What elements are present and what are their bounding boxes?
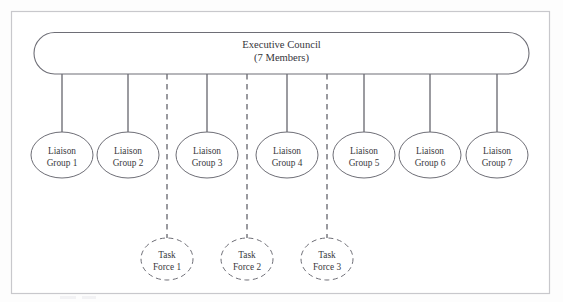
scan-artifact (60, 296, 76, 299)
liaison-group-label-line2-3: Group 3 (192, 158, 223, 168)
task-force-label-line1-3: Task (318, 250, 336, 260)
liaison-group-label-line1-1: Liaison (48, 146, 76, 156)
task-force-node-1[interactable]: TaskForce 1 (141, 238, 193, 280)
liaison-group-label-line2-6: Group 6 (415, 158, 446, 168)
task-force-label-line1-1: Task (158, 250, 176, 260)
executive-council-node[interactable]: Executive Council (7 Members) (34, 33, 529, 75)
diagram-page: Executive Council (7 Members) LiaisonGro… (0, 0, 563, 302)
task-force-label-line1-2: Task (238, 250, 256, 260)
liaison-group-node-4[interactable]: LiaisonGroup 4 (256, 132, 318, 178)
org-chart-svg: Executive Council (7 Members) LiaisonGro… (0, 0, 563, 302)
executive-council-subtitle: (7 Members) (254, 52, 309, 64)
task-force-label-line2-1: Force 1 (153, 262, 181, 272)
liaison-group-label-line1-7: Liaison (483, 146, 511, 156)
liaison-group-node-3[interactable]: LiaisonGroup 3 (176, 132, 238, 178)
liaison-group-node-6[interactable]: LiaisonGroup 6 (399, 132, 461, 178)
liaison-group-label-line1-2: Liaison (114, 146, 142, 156)
liaison-group-label-line1-4: Liaison (273, 146, 301, 156)
liaison-group-node-1[interactable]: LiaisonGroup 1 (31, 132, 93, 178)
task-force-node-2[interactable]: TaskForce 2 (221, 238, 273, 280)
liaison-group-label-line2-4: Group 4 (272, 158, 303, 168)
liaison-group-label-line1-5: Liaison (350, 146, 378, 156)
task-force-label-line2-3: Force 3 (313, 262, 341, 272)
task-force-node-3[interactable]: TaskForce 3 (301, 238, 353, 280)
executive-council-title: Executive Council (242, 39, 321, 50)
scan-artifact (82, 296, 96, 299)
liaison-group-node-2[interactable]: LiaisonGroup 2 (97, 132, 159, 178)
liaison-group-label-line2-1: Group 1 (47, 158, 78, 168)
liaison-group-label-line1-6: Liaison (416, 146, 444, 156)
liaison-group-label-line2-5: Group 5 (349, 158, 380, 168)
liaison-group-label-line2-7: Group 7 (482, 158, 513, 168)
liaison-group-label-line2-2: Group 2 (113, 158, 144, 168)
liaison-group-node-5[interactable]: LiaisonGroup 5 (333, 132, 395, 178)
task-force-label-line2-2: Force 2 (233, 262, 261, 272)
liaison-group-label-line1-3: Liaison (193, 146, 221, 156)
liaison-group-node-7[interactable]: LiaisonGroup 7 (466, 132, 528, 178)
